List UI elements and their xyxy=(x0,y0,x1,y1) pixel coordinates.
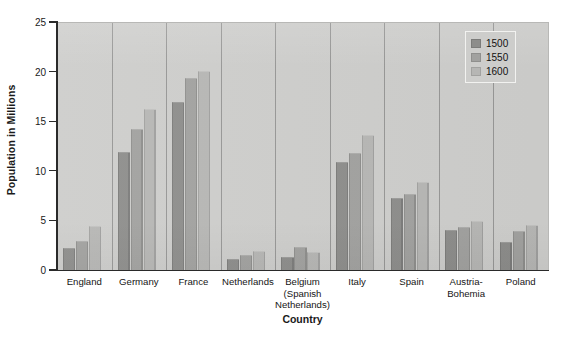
bar-1500-austria- xyxy=(445,230,457,271)
x-axis-title: Country xyxy=(57,313,548,325)
y-axis-tick-label: 10 xyxy=(2,165,46,176)
bar-1550-austria- xyxy=(458,227,470,271)
group-separator xyxy=(112,23,113,271)
legend-swatch-icon-1500 xyxy=(471,39,481,48)
y-axis-tick-label: 0 xyxy=(2,265,46,276)
x-axis-label-poland: Poland xyxy=(479,276,561,288)
legend-label-1550: 1550 xyxy=(486,52,508,63)
bar-1500-italy xyxy=(336,162,348,271)
bar-1600-france xyxy=(198,71,210,271)
group-separator xyxy=(439,23,440,271)
y-axis-tick-label: 15 xyxy=(2,116,46,127)
legend-swatch-icon-1550 xyxy=(471,53,481,62)
group-separator xyxy=(275,23,276,271)
legend-item-1600: 1600 xyxy=(471,64,508,78)
bar-1550-england xyxy=(76,241,88,271)
bar-1600-belgium xyxy=(307,252,319,271)
bar-1500-england xyxy=(63,248,75,271)
x-axis-line xyxy=(56,270,549,272)
bar-1550-poland xyxy=(513,231,525,271)
y-axis-tick-label: 20 xyxy=(2,66,46,77)
bar-1500-germany xyxy=(118,152,130,271)
bar-1500-france xyxy=(172,102,184,271)
bar-1600-poland xyxy=(526,225,538,271)
bar-1600-netherlands xyxy=(253,251,265,271)
bar-1600-spain xyxy=(417,182,429,271)
legend-label-1600: 1600 xyxy=(486,66,508,77)
bar-1550-belgium xyxy=(294,247,306,271)
bar-1600-germany xyxy=(144,109,156,271)
y-axis-tick-label: 25 xyxy=(2,17,46,28)
group-separator xyxy=(166,23,167,271)
bar-1550-germany xyxy=(131,129,143,271)
bar-1600-england xyxy=(89,226,101,271)
chart-legend: 150015501600 xyxy=(465,31,516,83)
bar-1600-italy xyxy=(362,135,374,271)
legend-item-1550: 1550 xyxy=(471,50,508,64)
bar-1550-italy xyxy=(349,153,361,271)
bar-1600-austria- xyxy=(471,221,483,271)
legend-label-1500: 1500 xyxy=(486,38,508,49)
legend-swatch-icon-1600 xyxy=(471,67,481,76)
bar-1550-spain xyxy=(404,194,416,271)
group-separator xyxy=(384,23,385,271)
group-separator xyxy=(221,23,222,271)
bar-1500-poland xyxy=(500,242,512,271)
bar-1500-spain xyxy=(391,198,403,271)
bar-1550-france xyxy=(185,78,197,271)
y-axis-tick-label: 5 xyxy=(2,215,46,226)
legend-item-1500: 1500 xyxy=(471,36,508,50)
group-separator xyxy=(330,23,331,271)
y-axis-line xyxy=(56,21,58,271)
y-axis-tick-labels: 0510152025 xyxy=(0,0,46,344)
bar-chart-figure: Population in Millions 0510152025 Englan… xyxy=(0,0,561,344)
